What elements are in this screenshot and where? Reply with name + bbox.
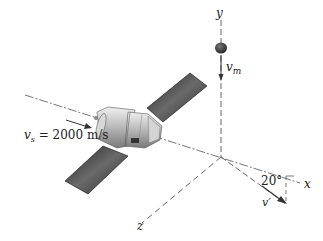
satellite-velocity-value: = 2000 m/s <box>35 128 109 142</box>
satellite-velocity-label: vs = 2000 m/s <box>24 128 109 144</box>
final-velocity-label: v′ <box>262 196 271 209</box>
solar-panel-lower <box>65 146 128 194</box>
meteor-velocity-symbol: v <box>226 60 233 74</box>
z-axis <box>142 157 221 223</box>
meteor-velocity-subscript: m <box>233 66 242 76</box>
final-velocity-vector <box>221 157 294 204</box>
meteor-velocity-label: vm <box>226 60 241 76</box>
meteor-velocity-arrow <box>219 55 224 81</box>
angle-label: 20° <box>261 174 282 188</box>
y-axis-label: y <box>216 6 223 20</box>
satellite-velocity-symbol: v <box>24 128 31 142</box>
diagram-canvas <box>0 0 323 241</box>
meteoroid <box>215 43 227 54</box>
solar-panel-upper <box>147 73 207 122</box>
x-axis-label: x <box>304 177 311 191</box>
z-axis-label: z <box>137 219 143 233</box>
